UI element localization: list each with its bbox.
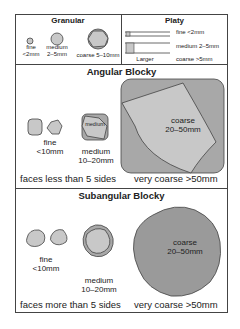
angular-medium-label: medium 10–20mm (75, 147, 117, 165)
platy-fine-label: fine <2mm (176, 29, 204, 36)
granular-coarse-label: coarse 5–10mm (75, 52, 121, 59)
granular-medium-label: medium 2–5mm (45, 44, 69, 58)
platy-title: Platy (121, 16, 228, 25)
angular-medium-inner-label: medium (82, 121, 108, 127)
platy-medium-icon (126, 43, 134, 53)
angular-faces-note: faces less than 5 sides (20, 174, 116, 185)
angular-fine-label: fine <10mm (30, 138, 70, 156)
angular-very-coarse-label: very coarse >50mm (134, 174, 218, 185)
subangular-fine-icon-2 (50, 230, 67, 245)
subangular-coarse-label: coarse 20–50mm (155, 238, 215, 256)
platy-coarse-label: coarse >5mm (176, 56, 213, 63)
angular-coarse-label: coarse 20–50mm (153, 116, 213, 134)
platy-fine-icon (126, 32, 130, 36)
angular-fine-icon-1 (28, 119, 42, 135)
section-divider-top (15, 64, 228, 65)
subangular-medium-label: medium 10–20mm (78, 276, 120, 294)
subangular-fine-icon-1 (27, 230, 45, 247)
subangular-very-coarse-label: very coarse >50mm (134, 300, 218, 311)
granular-title: Granular (15, 16, 121, 25)
section-divider-middle (15, 188, 228, 189)
platy-larger-label: Larger (130, 56, 160, 63)
granular-fine-label: fine <2mm (22, 44, 40, 58)
subangular-faces-note: faces more than 5 sides (20, 300, 121, 311)
platy-medium-label: medium 2–5mm (176, 43, 219, 50)
subangular-fine-label: fine <10mm (30, 255, 62, 273)
angular-fine-icon-2 (47, 120, 62, 134)
